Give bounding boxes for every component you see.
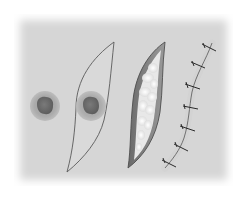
incision-outline-step xyxy=(67,42,114,172)
sutured-closure-step xyxy=(162,43,216,168)
excision-illustration xyxy=(0,0,245,198)
illustration-canvas xyxy=(0,0,245,198)
open-wound-step xyxy=(128,42,165,168)
lesion-1 xyxy=(30,91,60,121)
